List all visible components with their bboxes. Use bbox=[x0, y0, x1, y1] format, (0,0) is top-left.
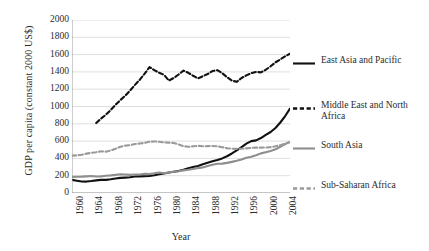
legend-swatch-icon bbox=[293, 184, 315, 193]
plot-svg bbox=[72, 20, 290, 193]
legend-swatch-icon bbox=[293, 104, 315, 113]
legend-swatch-icon bbox=[293, 59, 315, 68]
legend-item-2[interactable]: South Asia bbox=[293, 140, 429, 151]
x-tick-label: 1996 bbox=[250, 196, 260, 215]
legend-item-1[interactable]: Middle East and North Africa bbox=[293, 100, 429, 122]
legend-label: East Asia and Pacific bbox=[321, 55, 401, 66]
x-tick-label: 1988 bbox=[212, 196, 222, 215]
x-tick-label: 1980 bbox=[173, 196, 183, 215]
legend-swatch-icon bbox=[293, 144, 315, 153]
legend-label: Middle East and North Africa bbox=[321, 100, 429, 122]
legend-item-3[interactable]: Sub-Saharan Africa bbox=[293, 180, 429, 191]
series-lines bbox=[72, 54, 290, 182]
x-tick-label: 1968 bbox=[115, 196, 125, 215]
x-tick-label: 1976 bbox=[154, 196, 164, 215]
x-tick-label: 1992 bbox=[231, 196, 241, 215]
series-line-1 bbox=[96, 54, 290, 123]
x-tick-label: 2000 bbox=[270, 196, 280, 215]
x-tick-label: 1972 bbox=[134, 196, 144, 215]
legend-label: South Asia bbox=[321, 140, 362, 151]
legend-label: Sub-Saharan Africa bbox=[321, 180, 396, 191]
legend-item-0[interactable]: East Asia and Pacific bbox=[293, 55, 429, 66]
chart-figure: GDP per capita (constant 2000 US$) Year … bbox=[0, 0, 429, 251]
plot-area bbox=[72, 20, 290, 193]
gridlines bbox=[72, 20, 290, 193]
x-tick-label: 1984 bbox=[192, 196, 202, 215]
x-tick-label: 1964 bbox=[95, 196, 105, 215]
series-line-3 bbox=[72, 141, 290, 155]
x-tick-label: 1960 bbox=[76, 196, 86, 215]
x-tick-label: 2004 bbox=[289, 196, 299, 215]
